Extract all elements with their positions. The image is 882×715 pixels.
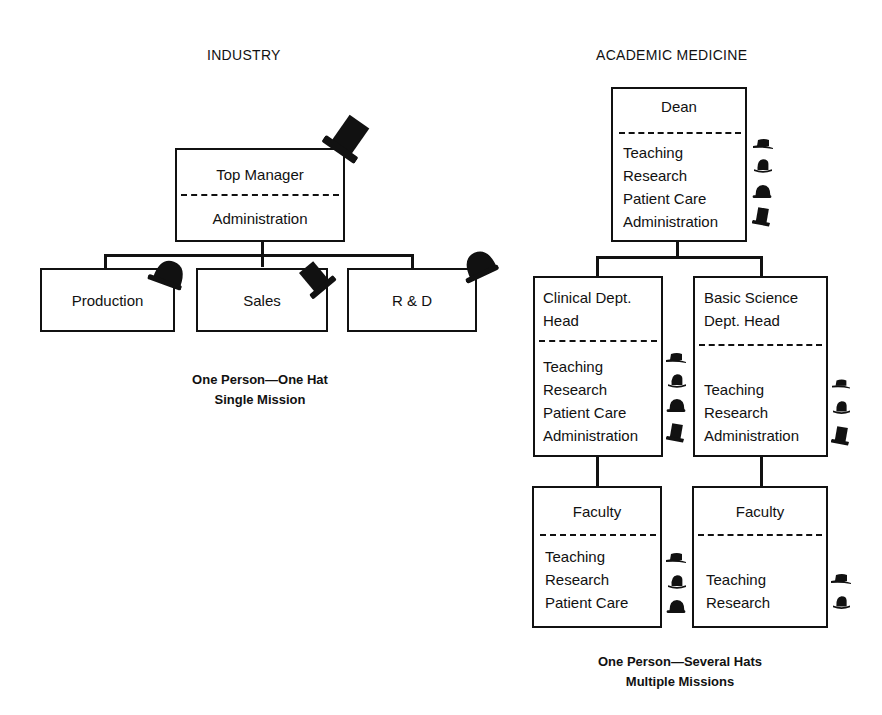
role-patient-care: Patient Care (545, 591, 628, 614)
rnd-title: R & D (349, 289, 475, 312)
caption-line2: Single Mission (160, 390, 360, 410)
connector (104, 254, 412, 257)
industry-heading: INDUSTRY (207, 47, 281, 63)
caption-line2: Multiple Missions (565, 672, 795, 692)
flat-hat-icon (832, 378, 850, 390)
role-patient-care: Patient Care (543, 401, 626, 424)
bowler-hat-icon (752, 184, 772, 199)
fedora-hat-icon (668, 373, 686, 390)
flat-hat-icon (666, 552, 686, 564)
role-research: Research (543, 378, 607, 401)
role-research: Research (704, 401, 768, 424)
connector (760, 256, 763, 276)
fedora-hat-icon (668, 574, 686, 591)
academic-caption: One Person—Several Hats Multiple Mission… (565, 652, 795, 692)
flat-hat-icon (831, 573, 851, 585)
top-manager-title: Top Manager (177, 163, 343, 186)
fedora-hat-icon (754, 158, 772, 175)
basic-faculty-box: Faculty Teaching Research (692, 486, 828, 628)
divider (619, 132, 741, 134)
rnd-box: R & D (347, 268, 477, 332)
top-hat-icon (665, 421, 687, 446)
connector (104, 254, 107, 268)
top-manager-box: Top Manager Administration (175, 148, 345, 242)
connector (596, 256, 599, 276)
flat-hat-icon (666, 352, 686, 364)
top-hat-icon (830, 424, 852, 449)
role-research: Research (706, 591, 770, 614)
clinical-head-title-2: Head (543, 309, 579, 332)
dean-box: Dean Teaching Research Patient Care Admi… (611, 87, 747, 242)
top-manager-role: Administration (177, 207, 343, 230)
role-patient-care: Patient Care (623, 187, 706, 210)
connector (760, 457, 763, 487)
caption-line1: One Person—One Hat (160, 370, 360, 390)
divider (539, 340, 657, 342)
clinical-faculty-box: Faculty Teaching Research Patient Care (532, 486, 662, 628)
industry-caption: One Person—One Hat Single Mission (160, 370, 360, 410)
bowler-hat-icon (666, 599, 686, 614)
basic-head-title: Basic Science (704, 286, 798, 309)
faculty-title: Faculty (694, 500, 826, 523)
clinical-head-box: Clinical Dept. Head Teaching Research Pa… (533, 276, 663, 457)
divider (698, 534, 822, 536)
role-administration: Administration (704, 424, 799, 447)
role-research: Research (623, 164, 687, 187)
role-teaching: Teaching (706, 568, 766, 591)
clinical-head-title: Clinical Dept. (543, 286, 631, 309)
fedora-hat-icon (833, 400, 850, 416)
academic-heading: ACADEMIC MEDICINE (596, 47, 747, 63)
role-teaching: Teaching (623, 141, 683, 164)
flat-hat-icon (753, 138, 773, 150)
role-administration: Administration (543, 424, 638, 447)
basic-head-box: Basic Science Dept. Head Teaching Resear… (693, 276, 828, 457)
top-hat-icon (751, 205, 773, 230)
divider (540, 534, 656, 536)
connector (411, 254, 414, 268)
production-title: Production (42, 289, 173, 312)
role-teaching: Teaching (543, 355, 603, 378)
faculty-title: Faculty (534, 500, 660, 523)
basic-head-title-2: Dept. Head (704, 309, 780, 332)
role-teaching: Teaching (545, 545, 605, 568)
divider (181, 194, 339, 196)
role-teaching: Teaching (704, 378, 764, 401)
connector (596, 457, 599, 487)
caption-line1: One Person—Several Hats (565, 652, 795, 672)
role-administration: Administration (623, 210, 718, 233)
bowler-hat-icon (666, 398, 686, 413)
dean-title: Dean (613, 95, 745, 118)
divider (699, 344, 822, 346)
fedora-hat-icon (833, 595, 850, 611)
connector (596, 256, 762, 259)
role-research: Research (545, 568, 609, 591)
